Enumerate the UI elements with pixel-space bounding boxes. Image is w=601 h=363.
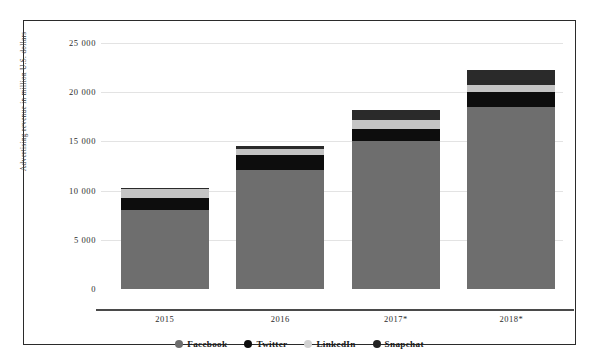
chart-legend: FacebookTwitterLinkedInSnapchat: [24, 339, 575, 349]
bar-segment-twitter[interactable]: [121, 198, 209, 211]
bar-segment-twitter[interactable]: [467, 92, 555, 107]
y-axis-tick-label: 10 000: [69, 186, 96, 196]
legend-label: Twitter: [256, 339, 287, 349]
y-axis-tick-label: 0: [91, 284, 96, 294]
y-axis-tick-label: 15 000: [69, 136, 96, 146]
plot-area: [101, 43, 563, 289]
bar-segment-facebook[interactable]: [121, 210, 209, 289]
bar-segment-facebook[interactable]: [236, 170, 324, 289]
y-axis-tick-label: 5 000: [74, 235, 96, 245]
gridline: [101, 43, 563, 44]
x-axis-tick-label: 2017*: [352, 314, 440, 324]
x-axis-tick-label: 2016: [236, 314, 324, 324]
legend-label: Snapchat: [385, 339, 424, 349]
bar-segment-linkedin[interactable]: [121, 189, 209, 198]
bar-segment-linkedin[interactable]: [352, 120, 440, 129]
bar-segment-linkedin[interactable]: [467, 85, 555, 92]
legend-swatch-icon: [244, 340, 252, 348]
legend-swatch-icon: [304, 340, 312, 348]
bar-stack-2015[interactable]: [121, 188, 209, 289]
bar-segment-facebook[interactable]: [352, 141, 440, 289]
chart-frame: Advertising revenue in million U.S. doll…: [23, 20, 576, 345]
x-axis-tick-label: 2018*: [467, 314, 555, 324]
legend-swatch-icon: [175, 340, 183, 348]
bar-stack-2018[interactable]: [467, 70, 555, 289]
x-axis-tick-label: 2015: [121, 314, 209, 324]
bar-segment-snapchat[interactable]: [352, 110, 440, 120]
legend-label: Facebook: [187, 339, 227, 349]
legend-item-linkedin[interactable]: LinkedIn: [304, 339, 355, 349]
legend-label: LinkedIn: [316, 339, 355, 349]
legend-item-facebook[interactable]: Facebook: [175, 339, 227, 349]
y-axis-tick-label: 20 000: [69, 87, 96, 97]
y-axis-tick-labels: 05 00010 00015 00020 00025 000: [24, 43, 96, 289]
bar-segment-facebook[interactable]: [467, 107, 555, 289]
legend-item-snapchat[interactable]: Snapchat: [373, 339, 424, 349]
bar-stack-2016[interactable]: [236, 146, 324, 289]
bar-segment-snapchat[interactable]: [467, 70, 555, 86]
legend-item-twitter[interactable]: Twitter: [244, 339, 287, 349]
x-axis-line: [96, 309, 574, 311]
bar-stack-2017[interactable]: [352, 110, 440, 289]
bar-segment-twitter[interactable]: [236, 155, 324, 170]
bar-segment-twitter[interactable]: [352, 129, 440, 142]
y-axis-tick-label: 25 000: [69, 38, 96, 48]
legend-swatch-icon: [373, 340, 381, 348]
